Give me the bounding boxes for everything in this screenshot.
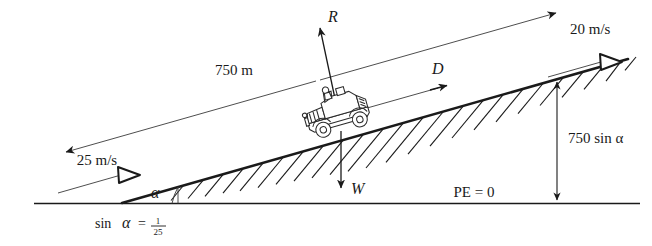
distance-750m-label: 750 m (215, 62, 253, 78)
car-seat-back (336, 87, 346, 96)
sin-alpha-equals: = (138, 216, 146, 231)
distance-dimension-750m (66, 13, 556, 152)
diagram-canvas: α sin α = 1 25 750 m R D (0, 0, 652, 246)
sin-alpha-symbol: α (122, 214, 131, 231)
weight-label: W (351, 180, 366, 197)
sin-alpha-relation: sin α = 1 25 (95, 214, 166, 237)
datum-pe-zero-label: PE = 0 (454, 184, 495, 200)
physics-diagram-figure: α sin α = 1 25 750 m R D (0, 0, 652, 246)
incline-hatching (171, 57, 636, 201)
car-headlamp (302, 113, 307, 118)
incline-surface (122, 59, 628, 203)
driving-force-vector (360, 86, 447, 111)
velocity-bottom-arrowhead (118, 167, 140, 183)
normal-force-label: R (327, 8, 338, 25)
sin-alpha-denominator: 25 (154, 227, 164, 237)
velocity-top-arrowhead (600, 54, 622, 70)
velocity-bottom-label: 25 m/s (77, 152, 118, 168)
car-illustration (297, 77, 373, 141)
velocity-bottom-marker (58, 167, 140, 193)
sin-alpha-sin-text: sin (95, 216, 111, 231)
angle-alpha-label: α (151, 184, 160, 201)
driving-force-label: D (431, 60, 444, 77)
velocity-top-marker (548, 54, 622, 77)
sin-alpha-numerator: 1 (156, 216, 161, 226)
velocity-top-label: 20 m/s (570, 21, 611, 37)
height-dimension-label: 750 sin α (568, 130, 624, 146)
